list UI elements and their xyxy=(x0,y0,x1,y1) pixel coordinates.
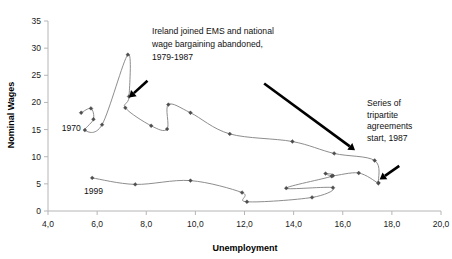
chart-figure: 051015202530354,06,08,010,012,014,016,01… xyxy=(0,0,452,259)
y-axis-tick-label: 10 xyxy=(32,152,42,162)
annotation-tripartite-note-line: tripartite xyxy=(367,110,398,120)
data-point-marker xyxy=(189,111,193,115)
y-axis-tick-label: 30 xyxy=(32,43,42,53)
data-point-marker xyxy=(79,111,83,115)
annotation-tripartite-note-line: start, 1987 xyxy=(367,133,408,143)
x-axis-tick-label: 8,0 xyxy=(140,219,152,229)
data-point-marker xyxy=(357,171,361,175)
data-point-marker xyxy=(332,152,336,156)
data-point-marker xyxy=(133,183,137,187)
data-point-marker xyxy=(189,179,193,183)
x-axis-tick-label: 10,0 xyxy=(187,219,204,229)
x-axis-tick-label: 20,0 xyxy=(433,219,450,229)
annotation-arrow-tripartite-short-arrow-shaft xyxy=(385,166,399,176)
series-line-lower-path-1987-1999 xyxy=(92,173,378,202)
series-line-upper-path-1970-1987 xyxy=(81,54,379,183)
data-point-marker xyxy=(149,124,153,128)
y-axis-tick-label: 35 xyxy=(32,16,42,26)
data-point-marker xyxy=(90,176,94,180)
series-year-label: 1999 xyxy=(84,186,103,196)
data-point-marker xyxy=(83,128,87,132)
x-axis-tick-label: 14,0 xyxy=(285,219,302,229)
annotation-arrow-ems-note-shaft xyxy=(134,81,148,93)
annotation-tripartite-note-line: Series of xyxy=(367,98,402,108)
annotation-ems-note-line: 1979-1987 xyxy=(152,52,193,62)
data-point-marker xyxy=(240,191,244,195)
y-axis-tick-label: 25 xyxy=(32,70,42,80)
y-axis-tick-label: 0 xyxy=(36,206,41,216)
x-axis-tick-label: 16,0 xyxy=(334,219,351,229)
y-axis-tick-label: 5 xyxy=(36,179,41,189)
data-point-marker xyxy=(310,196,314,200)
data-point-marker xyxy=(284,186,288,190)
data-point-marker xyxy=(92,117,96,121)
x-axis-tick-label: 4,0 xyxy=(42,219,54,229)
x-axis-tick-label: 12,0 xyxy=(236,219,253,229)
series-year-label: 1970 xyxy=(62,123,81,133)
data-point-marker xyxy=(245,200,249,204)
data-point-marker xyxy=(228,132,232,136)
phillips-curve-chart: 051015202530354,06,08,010,012,014,016,01… xyxy=(0,0,452,259)
x-axis-tick-label: 6,0 xyxy=(91,219,103,229)
annotation-arrow-tripartite-note-shaft xyxy=(264,83,350,146)
x-axis-tick-label: 18,0 xyxy=(384,219,401,229)
y-axis-tick-label: 20 xyxy=(32,97,42,107)
annotation-tripartite-note-line: agreements xyxy=(367,121,412,131)
annotation-ems-note-line: Ireland joined EMS and national xyxy=(152,26,274,36)
annotation-ems-note-line: wage bargaining abandoned, xyxy=(151,39,263,49)
data-point-marker xyxy=(290,140,294,144)
y-axis-tick-label: 15 xyxy=(32,125,42,135)
data-point-marker xyxy=(166,103,170,107)
